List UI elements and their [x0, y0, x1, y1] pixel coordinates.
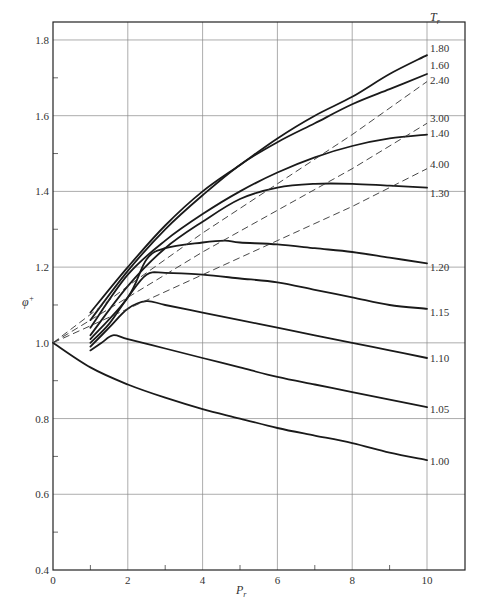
y-tick-label: 1.4	[35, 185, 49, 197]
curve-Tr-1_05	[90, 335, 427, 407]
x-tick-label: 6	[275, 574, 281, 586]
x-tick-label: 0	[50, 574, 56, 586]
y-tick-labels: 0.40.60.81.01.21.41.61.8	[35, 34, 49, 576]
curve-Tr-1_60	[90, 74, 427, 320]
curve-label: 1.05	[430, 403, 450, 415]
y-tick-label: 1.8	[35, 34, 49, 46]
y-tick-label: 1.2	[35, 261, 49, 273]
x-tick-label: 8	[349, 574, 355, 586]
y-tick-label: 0.4	[35, 564, 49, 576]
chart: 0246810 0.40.60.81.01.21.41.61.8 1.801.6…	[0, 0, 487, 616]
curve-label: 3.00	[430, 112, 450, 124]
curve-label: 1.40	[430, 127, 450, 139]
x-tick-label: 4	[200, 574, 206, 586]
curve-Tr-1_00	[53, 343, 427, 460]
curve-Tr-1_30	[90, 183, 427, 335]
curve-label: 2.40	[430, 74, 450, 86]
curve-label: 1.00	[430, 455, 450, 467]
x-tick-label: 2	[125, 574, 131, 586]
x-tick-label: 10	[422, 574, 434, 586]
curve-label: 1.30	[430, 187, 450, 199]
curve-Tr-2_40	[53, 82, 427, 343]
curve-Tr-1_15	[90, 272, 427, 343]
curve-label: 1.20	[430, 261, 450, 273]
curve-label: 1.15	[430, 306, 450, 318]
curve-Tr-1_10	[90, 301, 427, 358]
y-tick-label: 0.8	[35, 413, 49, 425]
curve-Tr-1_40	[90, 135, 427, 328]
y-tick-label: 0.6	[35, 488, 49, 500]
y-tick-label: 1.0	[35, 337, 49, 349]
minor-ticks	[53, 78, 390, 570]
curve-label: 1.80	[430, 42, 450, 54]
y-axis-label: φ+	[22, 294, 34, 309]
curve-label: 1.10	[430, 352, 450, 364]
curve-Tr-4_00	[53, 169, 427, 343]
curve-label: 1.60	[430, 59, 450, 71]
y-tick-label: 1.6	[35, 110, 49, 122]
curve-labels: 1.801.601.401.301.201.151.101.051.002.40…	[430, 42, 450, 467]
legend-title: Tr	[430, 10, 441, 26]
x-axis-label: Pr	[235, 583, 247, 599]
curve-label: 4.00	[430, 158, 450, 170]
